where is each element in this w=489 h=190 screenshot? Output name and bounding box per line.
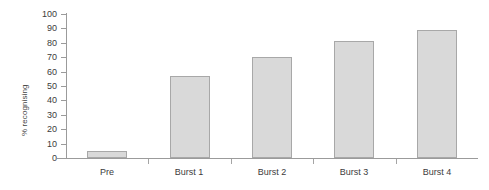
y-axis-tick	[61, 28, 66, 29]
y-axis-tick	[61, 86, 66, 87]
y-axis-tick	[61, 158, 66, 159]
y-axis-tick	[61, 100, 66, 101]
x-axis-tick	[148, 159, 149, 164]
y-axis-tick-label: 90	[17, 24, 57, 33]
x-axis-category-label: Burst 4	[396, 167, 478, 177]
y-axis-tick-label: 30	[17, 111, 57, 120]
y-axis-tick	[61, 43, 66, 44]
y-axis-tick-label: 50	[17, 82, 57, 91]
y-axis-tick-label: 80	[17, 39, 57, 48]
y-axis-tick	[61, 57, 66, 58]
y-axis-tick-label: 100	[17, 10, 57, 19]
y-axis-tick-label: 60	[17, 68, 57, 77]
bar-chart: % recognising 0102030405060708090100PreB…	[0, 0, 489, 190]
y-axis-tick-label: 0	[17, 154, 57, 163]
x-axis-category-label: Pre	[66, 167, 148, 177]
y-axis-tick-label: 40	[17, 96, 57, 105]
y-axis-line	[66, 13, 67, 159]
y-axis-tick	[61, 72, 66, 73]
x-axis-tick	[313, 159, 314, 164]
y-axis-tick-label: 20	[17, 125, 57, 134]
x-axis-category-label: Burst 3	[313, 167, 395, 177]
x-axis-category-label: Burst 2	[231, 167, 313, 177]
y-axis-tick	[61, 14, 66, 15]
y-axis-tick-label: 10	[17, 140, 57, 149]
y-axis-tick	[61, 129, 66, 130]
y-axis-tick	[61, 115, 66, 116]
x-axis-tick	[231, 159, 232, 164]
x-axis-tick	[396, 159, 397, 164]
bar	[334, 41, 374, 158]
bar	[417, 30, 457, 158]
bar	[170, 76, 210, 158]
x-axis-category-label: Burst 1	[148, 167, 230, 177]
y-axis-tick	[61, 144, 66, 145]
bar	[252, 57, 292, 158]
bar	[87, 151, 127, 158]
y-axis-tick-label: 70	[17, 53, 57, 62]
x-axis-line	[57, 158, 478, 159]
